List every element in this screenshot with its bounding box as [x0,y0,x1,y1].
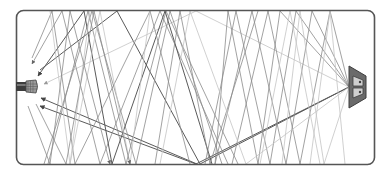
reflection-paths [28,11,349,164]
microphone-icon [16,80,38,93]
diagram-canvas [0,0,391,175]
reflection-diagram [0,0,391,175]
loudspeaker-icon [349,66,366,108]
reflection-path [32,11,190,164]
reflection-path [36,11,130,164]
reflection-path [215,11,349,164]
reflection-path [215,11,349,164]
